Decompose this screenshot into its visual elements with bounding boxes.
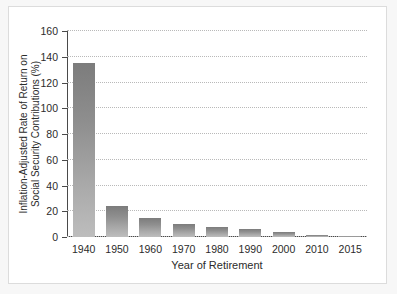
bar-slot: 2010 [300, 31, 333, 237]
bar [173, 224, 195, 237]
bar-slot: 1990 [234, 31, 267, 237]
x-axis-tick-label: 1950 [105, 243, 128, 255]
plot-area: 020406080100120140160 194019501960197019… [67, 31, 367, 237]
y-axis-tick-label: 0 [52, 231, 58, 243]
x-axis-tick-label: 1970 [172, 243, 195, 255]
bar-slot: 1980 [200, 31, 233, 237]
x-axis-tick-label: 2015 [339, 243, 362, 255]
x-axis-tick-label: 1980 [205, 243, 228, 255]
bar [239, 229, 261, 237]
x-axis-title: Year of Retirement [67, 259, 367, 271]
bar [106, 206, 128, 237]
bar-slot: 1940 [67, 31, 100, 237]
bar-slot: 1970 [167, 31, 200, 237]
y-axis-title-line1: Inflation-Adjusted Rate of Return on [18, 55, 29, 214]
y-axis-tick-label: 140 [40, 51, 58, 63]
bar-series: 194019501960197019801990200020102015 [67, 31, 367, 237]
bar [73, 63, 95, 237]
y-axis-tick-label: 80 [46, 128, 58, 140]
y-axis-tick-label: 100 [40, 102, 58, 114]
bar [206, 227, 228, 237]
bar [306, 235, 328, 237]
bar-slot: 2000 [267, 31, 300, 237]
y-axis-tick [62, 237, 67, 238]
bar-slot: 1960 [134, 31, 167, 237]
y-axis-title-line2: Social Security Contributions (%) [30, 61, 41, 207]
x-axis-tick-label: 2010 [305, 243, 328, 255]
y-axis-tick-label: 40 [46, 180, 58, 192]
y-axis-tick-label: 160 [40, 25, 58, 37]
bar-slot: 2015 [334, 31, 367, 237]
x-axis-tick-label: 1990 [239, 243, 262, 255]
bar [339, 236, 361, 237]
y-axis-tick-label: 120 [40, 77, 58, 89]
x-axis-tick-label: 1960 [139, 243, 162, 255]
y-axis-tick-label: 20 [46, 205, 58, 217]
bar [273, 232, 295, 237]
y-axis-tick-label: 60 [46, 154, 58, 166]
x-axis-tick-label: 2000 [272, 243, 295, 255]
bar [139, 218, 161, 237]
x-axis-tick-label: 1940 [72, 243, 95, 255]
bar-slot: 1950 [100, 31, 133, 237]
chart-figure: Inflation-Adjusted Rate of Return on Soc… [8, 6, 387, 284]
